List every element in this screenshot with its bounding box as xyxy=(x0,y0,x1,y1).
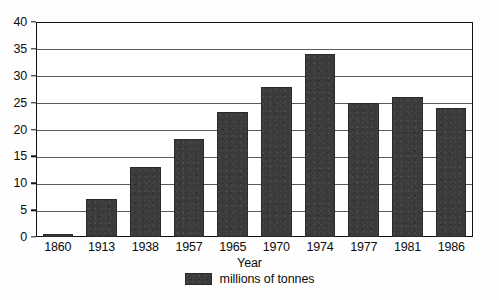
y-tick-label: 20 xyxy=(13,123,27,137)
x-tick-label: 1957 xyxy=(175,240,202,254)
bar xyxy=(261,87,292,238)
bar xyxy=(392,97,423,237)
x-tick-label: 1974 xyxy=(307,240,334,254)
bar xyxy=(348,103,379,237)
y-tick-label: 0 xyxy=(20,230,27,244)
x-tick-label: 1913 xyxy=(88,240,115,254)
x-tick-label: 1977 xyxy=(350,240,377,254)
x-tick-label: 1981 xyxy=(394,240,421,254)
x-tick-label: 1965 xyxy=(219,240,246,254)
y-tick-label: 30 xyxy=(13,69,27,83)
legend-color-swatch xyxy=(185,273,212,285)
y-tick-label: 35 xyxy=(13,42,27,56)
bar xyxy=(86,199,117,237)
y-tick-label: 15 xyxy=(13,149,27,163)
x-tick-label: 1970 xyxy=(263,240,290,254)
y-axis: 0510152025303540 xyxy=(0,0,36,300)
bar xyxy=(305,54,336,237)
y-tick-label: 5 xyxy=(20,203,27,217)
y-tick-label: 10 xyxy=(13,176,27,190)
bar xyxy=(217,112,248,237)
y-tick-label: 25 xyxy=(13,96,27,110)
bar xyxy=(130,167,161,237)
bar xyxy=(436,108,467,237)
x-tick-label: 1986 xyxy=(438,240,465,254)
x-axis-title: Year xyxy=(0,256,499,270)
x-tick-label: 1860 xyxy=(44,240,71,254)
legend: millions of tonnes xyxy=(0,272,499,286)
legend-label: millions of tonnes xyxy=(220,272,315,286)
bar xyxy=(174,139,205,237)
bar-chart-figure: 0510152025303540 18601913193819571965197… xyxy=(0,0,499,300)
x-tick-label: 1938 xyxy=(132,240,159,254)
y-tick-label: 40 xyxy=(13,15,27,29)
bar-series-millions-of-tonnes xyxy=(36,22,473,237)
bar xyxy=(43,234,74,237)
